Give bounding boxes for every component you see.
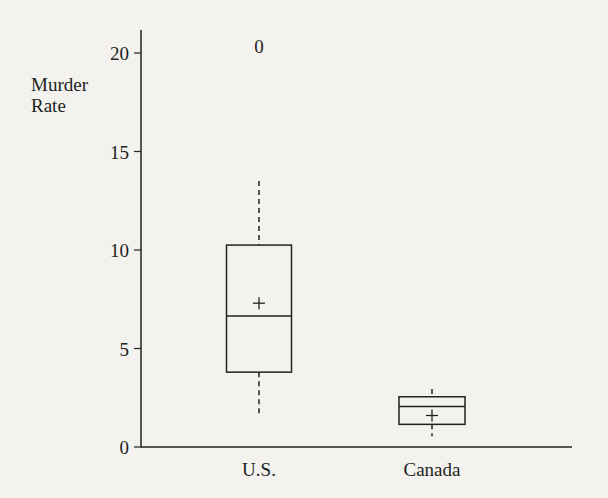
y-tick-label: 15 [110, 142, 129, 163]
x-category-label: Canada [404, 459, 462, 480]
x-axis-category-labels: U.S.Canada [242, 459, 461, 480]
boxes: 0 [227, 36, 466, 436]
y-axis-ticks: 05101520 [110, 43, 141, 458]
y-tick-label: 20 [110, 43, 129, 64]
outlier-marker: 0 [254, 36, 264, 57]
y-axis-label-line: Rate [31, 95, 66, 116]
y-tick-label: 5 [120, 339, 130, 360]
y-axis-label: MurderRate [31, 74, 89, 116]
axes [141, 30, 572, 448]
box-canada [399, 389, 465, 436]
box-us: 0 [227, 36, 292, 413]
boxplot-chart: 05101520 MurderRate 0 U.S.Canada [0, 0, 608, 498]
y-tick-label: 10 [110, 240, 129, 261]
y-axis-label-line: Murder [31, 74, 89, 95]
x-category-label: U.S. [242, 459, 276, 480]
y-tick-label: 0 [120, 437, 130, 458]
